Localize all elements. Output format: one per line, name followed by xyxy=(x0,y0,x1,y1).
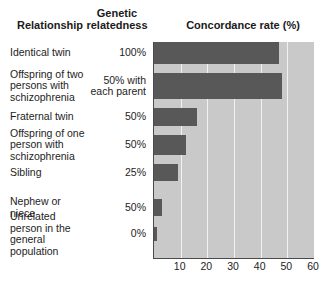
relationship-label: Offspring of two persons with schizophre… xyxy=(0,69,86,104)
genetic-relatedness-value: 50% xyxy=(86,111,152,123)
schizophrenia-concordance-figure: Relationship Genetic relatedness Concord… xyxy=(0,0,326,286)
bar xyxy=(154,227,157,241)
relationship-label: Unrelated person in the general populati… xyxy=(0,211,86,257)
chart-plot-area xyxy=(153,42,314,259)
table-row: Unrelated person in the general populati… xyxy=(0,223,152,245)
x-axis-tick-labels: 102030405060 xyxy=(153,260,315,276)
bar xyxy=(154,108,197,126)
header-genetic-relatedness-line1: Genetic xyxy=(84,7,150,19)
genetic-relatedness-value: 25% xyxy=(86,167,152,179)
genetic-relatedness-value: 0% xyxy=(86,228,152,240)
relationship-label: Sibling xyxy=(0,167,86,179)
table-row: Sibling25% xyxy=(0,160,152,185)
bar xyxy=(154,199,162,216)
relationship-label: Identical twin xyxy=(0,47,86,59)
header-concordance-rate: Concordance rate (%) xyxy=(168,19,318,31)
x-tick-label: 20 xyxy=(194,260,218,272)
bar-series xyxy=(154,42,314,258)
x-tick-label: 30 xyxy=(221,260,245,272)
x-tick-label: 60 xyxy=(301,260,325,272)
bar xyxy=(154,73,282,99)
genetic-relatedness-value: 100% xyxy=(86,47,152,59)
bar xyxy=(154,42,279,64)
x-tick-label: 40 xyxy=(248,260,272,272)
bar xyxy=(154,164,178,181)
table-row: Offspring of one person with schizophren… xyxy=(0,131,152,159)
table-row: Identical twin100% xyxy=(0,38,152,68)
relationship-label: Fraternal twin xyxy=(0,111,86,123)
x-tick-label: 10 xyxy=(168,260,192,272)
genetic-relatedness-value: 50% xyxy=(86,139,152,151)
header-relationship: Relationship xyxy=(8,19,92,31)
genetic-relatedness-value: 50% xyxy=(86,202,152,214)
table-row: Offspring of two persons with schizophre… xyxy=(0,69,152,103)
genetic-relatedness-value: 50% with each parent xyxy=(86,75,152,98)
x-tick-label: 50 xyxy=(274,260,298,272)
relationship-label: Offspring of one person with schizophren… xyxy=(0,128,86,163)
header-genetic-relatedness-line2: relatedness xyxy=(84,19,150,31)
bar xyxy=(154,135,186,155)
header-genetic-relatedness: Genetic relatedness xyxy=(84,7,150,31)
relationship-label-column: Identical twin100%Offspring of two perso… xyxy=(0,42,152,258)
